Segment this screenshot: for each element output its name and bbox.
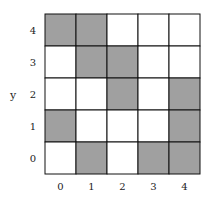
grid-cell-2-0 <box>107 142 138 174</box>
x-tick-labels: 01234 <box>57 181 187 192</box>
grid-cell-1-4 <box>76 14 107 46</box>
grid-cell-4-3 <box>169 46 200 78</box>
x-tick-label: 4 <box>181 181 187 192</box>
grid-cell-3-3 <box>138 46 169 78</box>
x-tick-label: 3 <box>150 181 156 192</box>
y-tick-label: 3 <box>30 57 36 68</box>
y-tick-labels: 01234 <box>30 25 36 164</box>
grid-cell-0-1 <box>45 110 76 142</box>
y-axis-label: y <box>9 89 17 102</box>
y-tick-label: 4 <box>30 25 36 36</box>
grid-cell-0-3 <box>45 46 76 78</box>
grid-cell-1-0 <box>76 142 107 174</box>
grid-cell-0-4 <box>45 14 76 46</box>
grid-cell-3-1 <box>138 110 169 142</box>
y-tick-label: 1 <box>30 121 36 132</box>
grid-cell-0-2 <box>45 78 76 110</box>
grid-cell-3-0 <box>138 142 169 174</box>
grid-cell-4-2 <box>169 78 200 110</box>
grid-cell-2-2 <box>107 78 138 110</box>
grid-cell-4-1 <box>169 110 200 142</box>
y-tick-label: 0 <box>30 153 36 164</box>
grid-cell-0-0 <box>45 142 76 174</box>
x-tick-label: 0 <box>57 181 63 192</box>
y-tick-label: 2 <box>30 89 36 100</box>
grid-cell-1-2 <box>76 78 107 110</box>
grid-cell-2-1 <box>107 110 138 142</box>
grid-cell-4-0 <box>169 142 200 174</box>
x-tick-label: 1 <box>88 181 94 192</box>
grid-cell-1-1 <box>76 110 107 142</box>
grid-cell-4-4 <box>169 14 200 46</box>
grid-cell-1-3 <box>76 46 107 78</box>
grid-cell-3-4 <box>138 14 169 46</box>
grid-cell-2-4 <box>107 14 138 46</box>
cells-layer <box>45 14 200 174</box>
grid-chart: 01234 01234 y <box>0 0 208 209</box>
x-tick-label: 2 <box>119 181 125 192</box>
grid-cell-2-3 <box>107 46 138 78</box>
grid-cell-3-2 <box>138 78 169 110</box>
